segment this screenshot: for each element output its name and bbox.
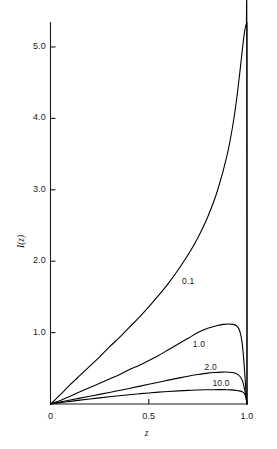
y-tick-label: 2.0 [20, 255, 46, 265]
plot-canvas [0, 0, 277, 449]
curve-label-10-0: 10.0 [212, 378, 229, 388]
y-axis-title: I(z) [16, 235, 26, 248]
x-tick-label: 1.0 [227, 411, 267, 421]
curve-1-0 [51, 324, 248, 404]
x-axis-title: z [145, 428, 149, 438]
y-tick-label: 3.0 [20, 184, 46, 194]
y-tick-label: 4.0 [20, 112, 46, 122]
axes-group [51, 22, 248, 404]
x-tick-label: 0.5 [129, 411, 169, 421]
x-tick-label: 0 [31, 411, 71, 421]
curve-label-2-0: 2.0 [205, 362, 217, 372]
curves-group [51, 0, 248, 404]
curve-label-0-1: 0.1 [182, 276, 194, 286]
figure-container: 1.02.03.04.05.0 00.51.0 0.11.02.010.0 I(… [0, 0, 277, 449]
y-tick-label: 5.0 [20, 41, 46, 51]
curve-0-1 [51, 0, 248, 404]
curve-label-1-0: 1.0 [193, 339, 205, 349]
y-tick-label: 1.0 [20, 327, 46, 337]
